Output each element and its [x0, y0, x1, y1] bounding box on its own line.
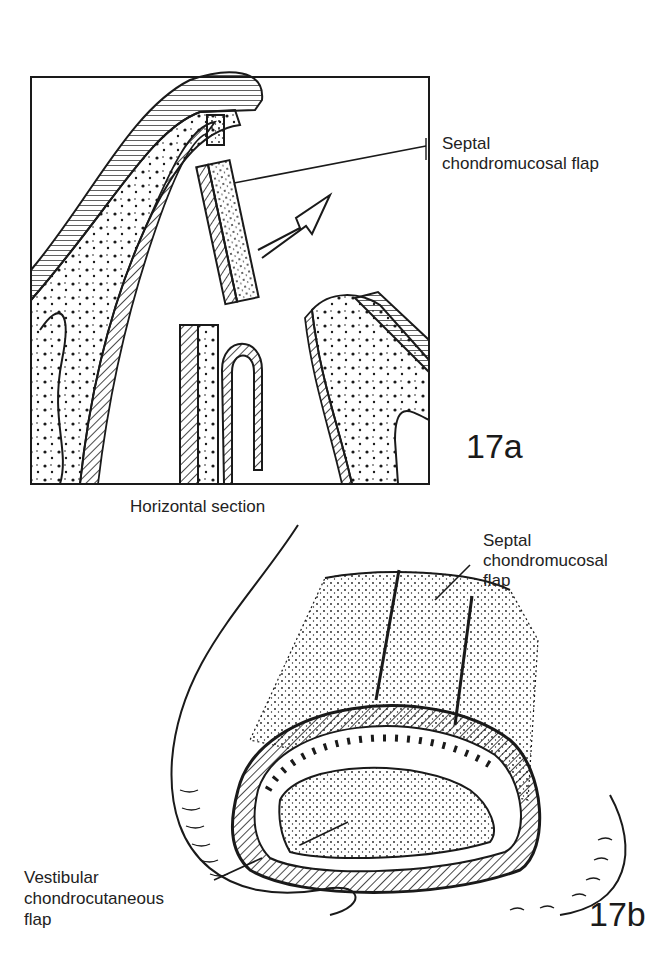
callout-17b-vestibular-line3: flap — [24, 910, 51, 930]
figure-label-17a: 17a — [466, 428, 523, 464]
callout-17b-septal-line3: flap — [483, 571, 510, 591]
figure-label-17b: 17b — [589, 896, 646, 932]
callout-17a-line2: chondromucosal flap — [442, 154, 599, 174]
caption-horizontal-section: Horizontal section — [130, 497, 265, 517]
callout-17b-vestibular-line1: Vestibular — [24, 868, 99, 888]
diagram-canvas — [0, 0, 658, 976]
callout-17b-septal-line1: Septal — [483, 531, 531, 551]
figure-17a-diagram — [31, 72, 429, 484]
callout-17a-line1: Septal — [442, 134, 490, 154]
figure-17b-diagram — [171, 525, 625, 915]
callout-17b-septal-line2: chondromucosal — [483, 551, 608, 571]
callout-17b-vestibular-line2: chondrocutaneous — [24, 889, 164, 909]
